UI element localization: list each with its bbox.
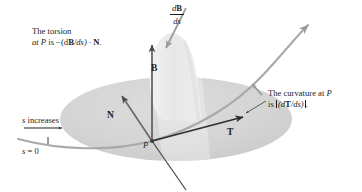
curvature-abs-value: (dT/ds): [276, 100, 306, 109]
curvature-is-text: is: [268, 99, 276, 109]
s-zero-label: s = 0: [22, 146, 39, 157]
tangent-vector-label: T: [227, 127, 233, 139]
dbds-fraction-label: dB ds: [170, 3, 184, 26]
s-increases-label: s increases: [22, 115, 59, 126]
torsion-at-text: at: [32, 37, 41, 47]
torsion-line-1: The torsion: [32, 26, 102, 37]
torsion-ds-text: /ds) ·: [74, 37, 93, 47]
torsion-annotation: The torsion at P is −(dB/ds) · N.: [32, 26, 102, 47]
dbds-denominator: ds: [170, 16, 184, 27]
curvature-point-p: P: [326, 88, 331, 98]
s-increases-text: increases: [25, 115, 59, 125]
curvature-line-1: The curvature at P: [268, 88, 332, 99]
dbds-b: B: [176, 3, 182, 13]
curvature-dt-pre: (d: [278, 99, 285, 109]
binormal-vector-label: B: [151, 63, 157, 75]
curvature-line-2: is (dT/ds).: [268, 99, 332, 110]
curvature-period: .: [306, 99, 308, 109]
normal-vector-label: N: [107, 110, 114, 122]
dbds-numerator: dB: [170, 3, 184, 14]
torsion-period: .: [99, 37, 101, 47]
torsion-line-2: at P is −(dB/ds) · N.: [32, 37, 102, 48]
point-p-label: P: [143, 140, 148, 151]
point-p-dot: [150, 139, 154, 143]
curvature-annotation: The curvature at P is (dT/ds).: [268, 88, 332, 109]
curvature-ds-post: /ds): [291, 99, 304, 109]
torsion-is-text: is −(d: [46, 37, 68, 47]
s-equals-zero-text: = 0: [25, 146, 38, 156]
curvature-text: The curvature at: [268, 88, 326, 98]
